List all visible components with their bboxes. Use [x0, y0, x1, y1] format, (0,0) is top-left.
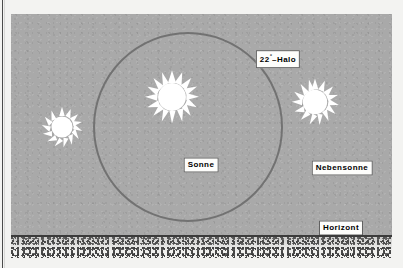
sun-glyph-left-parhelion	[39, 104, 85, 150]
halo-label-suffix: –Halo	[272, 55, 296, 64]
halo-ring-22-degree	[93, 32, 283, 222]
ground-shading	[11, 237, 392, 258]
ground-strip	[11, 237, 392, 258]
sun-label: Sonne	[184, 158, 219, 173]
sun-glyph-right-parhelion	[289, 76, 341, 128]
halo-label: 22°–Halo	[256, 50, 300, 68]
sky-panel: 22°–Halo Sonne Nebensonne Horizont	[11, 14, 392, 258]
page-left-rule-shadow	[4, 0, 5, 268]
halo-diagram-figure: 22°–Halo Sonne Nebensonne Horizont	[0, 0, 403, 268]
page-left-rule	[2, 0, 3, 268]
parhelion-label: Nebensonne	[312, 161, 373, 176]
sun-glyph-center	[143, 68, 201, 126]
halo-label-value: 22	[260, 55, 270, 64]
horizon-label: Horizont	[319, 221, 363, 236]
